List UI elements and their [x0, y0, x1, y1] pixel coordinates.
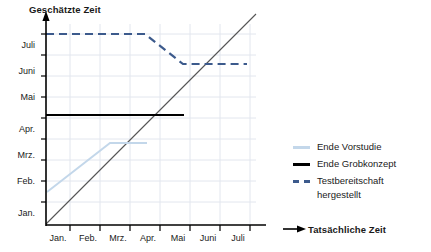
legend-swatch-vorstudie [293, 146, 310, 149]
x-axis-ticks [70, 225, 250, 231]
legend-swatch-grobkonzept [293, 163, 310, 166]
legend-label-testbereitschaft-line2: hergestellt [317, 188, 428, 202]
legend-label-vorstudie: Ende Vorstudie [317, 140, 428, 154]
legend-label-grobkonzept: Ende Grobkonzept [317, 157, 428, 171]
chart-legend: Ende Vorstudie Ende Grobkonzept Testbere… [293, 140, 428, 204]
series-ideal-line [46, 14, 256, 224]
legend-item-grobkonzept: Ende Grobkonzept [293, 157, 428, 172]
x-tick-label-mai: Mai [161, 233, 195, 243]
gridlines-horizontal [46, 34, 256, 202]
gridlines-vertical [70, 24, 250, 224]
chart-plot-area [0, 0, 431, 252]
x-axis-arrow-icon [283, 225, 306, 232]
chart-container: Geschätzte Zeit Tatsächliche Zeit [0, 0, 431, 252]
y-tick-label-juli: Juli [3, 40, 35, 50]
legend-item-vorstudie: Ende Vorstudie [293, 140, 428, 155]
y-tick-label-jan: Jan. [3, 208, 35, 218]
y-tick-label-juni: Juni [3, 66, 35, 76]
y-tick-label-apr: Apr. [3, 124, 35, 134]
y-tick-label-feb: Feb. [3, 176, 35, 186]
legend-item-testbereitschaft: Testbereitschaft hergestellt [293, 174, 428, 202]
x-tick-label-juni: Juni [191, 233, 225, 243]
y-tick-label-mrz: Mrz. [3, 150, 35, 160]
x-tick-label-mrz: Mrz. [101, 233, 135, 243]
x-tick-label-jan: Jan. [41, 233, 75, 243]
x-tick-label-feb: Feb. [71, 233, 105, 243]
series-testbereitschaft [46, 34, 247, 64]
legend-swatch-testbereitschaft [293, 180, 310, 183]
x-tick-label-juli: Juli [221, 233, 255, 243]
y-tick-label-mai: Mai [3, 92, 35, 102]
x-tick-label-apr: Apr. [131, 233, 165, 243]
legend-label-testbereitschaft: Testbereitschaft [317, 174, 428, 188]
series-vorstudie [47, 143, 147, 192]
